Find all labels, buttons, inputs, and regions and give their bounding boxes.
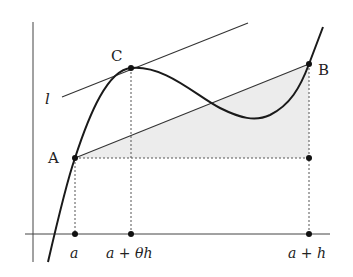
label-c-point: C (111, 47, 122, 65)
point-b (306, 61, 312, 67)
tangent-line-l (62, 23, 248, 97)
tick-label-a: a (70, 245, 78, 261)
label-a-point: A (47, 149, 59, 167)
tick-a-h-dot (306, 231, 312, 237)
mvt-diagram: A C B l a a + θh a + h (0, 0, 353, 277)
point-foot (306, 155, 312, 161)
point-a (72, 155, 78, 161)
label-b-point: B (318, 61, 329, 79)
label-tangent-l: l (45, 90, 50, 108)
tick-label-a-theta-h: a + θh (106, 245, 152, 261)
tick-a-theta-h-dot (128, 231, 134, 237)
tick-label-a-h: a + h (288, 245, 326, 261)
point-c (128, 65, 134, 71)
tick-a-dot (72, 231, 78, 237)
